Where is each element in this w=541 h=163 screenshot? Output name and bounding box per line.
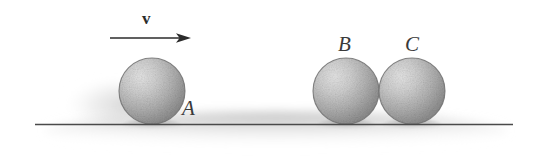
sphere-label-b: B [338, 34, 351, 55]
velocity-label: v [142, 10, 151, 27]
sphere-label-c: C [405, 34, 419, 55]
physics-collision-diagram: v A B C [0, 0, 541, 163]
diagram-canvas [0, 0, 541, 163]
ground-shadow [44, 112, 508, 150]
velocity-arrow [110, 33, 191, 43]
sphere-label-a: A [182, 98, 195, 119]
